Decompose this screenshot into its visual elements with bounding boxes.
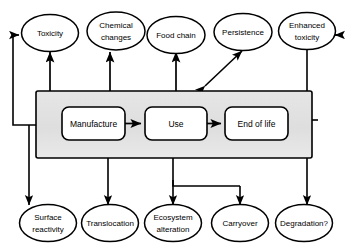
stage-label-manufacture: Manufacture (70, 119, 118, 129)
lifecycle-flow-diagram: Manufacture Use End of life Toxicity Che… (0, 0, 356, 251)
node-enhanced-toxicity-label-line2: toxicity (295, 33, 319, 42)
stage-label-use: Use (168, 119, 183, 129)
node-toxicity-label: Toxicity (37, 29, 63, 38)
node-ecosystem-alteration-shape (145, 205, 202, 242)
node-chemical-changes-label-line2: changes (101, 33, 131, 42)
node-persistence[interactable]: Persistence (214, 14, 272, 51)
node-surface-reactivity-label-line2: reactivity (32, 225, 64, 234)
node-surface-reactivity-shape (20, 205, 77, 242)
node-toxicity[interactable]: Toxicity (22, 15, 79, 52)
node-enhanced-toxicity-shape (279, 13, 336, 50)
node-translocation-label: Translocation (86, 219, 134, 228)
node-food-chain-label: Food chain (156, 31, 196, 40)
node-enhanced-toxicity-label-line1: Enhanced (289, 21, 325, 30)
stage-label-end-of-life: End of life (238, 119, 276, 129)
node-persistence-label: Persistence (222, 28, 264, 37)
node-surface-reactivity[interactable]: Surface reactivity (20, 205, 77, 242)
node-ecosystem-alteration-label-line1: Ecosystem (153, 213, 192, 222)
lifecycle-stage-boxes: Manufacture Use End of life (62, 107, 288, 140)
bottom-nodes: Surface reactivity Translocation Ecosyst… (20, 205, 333, 242)
node-chemical-changes[interactable]: Chemical changes (87, 12, 145, 50)
node-enhanced-toxicity[interactable]: Enhanced toxicity (279, 13, 336, 50)
node-carryover[interactable]: Carryover (212, 205, 269, 242)
node-degradation[interactable]: Degradation? (276, 205, 333, 242)
stage-box-manufacture[interactable]: Manufacture (62, 107, 125, 140)
node-translocation[interactable]: Translocation (82, 205, 139, 242)
diagram-canvas: Manufacture Use End of life Toxicity Che… (0, 0, 356, 251)
node-carryover-label: Carryover (222, 219, 257, 228)
stage-box-use[interactable]: Use (145, 107, 207, 140)
stage-box-end-of-life[interactable]: End of life (225, 107, 288, 140)
node-degradation-label: Degradation? (280, 219, 329, 228)
node-chemical-changes-shape (87, 12, 145, 50)
node-chemical-changes-label-line1: Chemical (99, 21, 133, 30)
node-ecosystem-alteration[interactable]: Ecosystem alteration (145, 205, 202, 242)
node-food-chain[interactable]: Food chain (147, 17, 205, 54)
node-ecosystem-alteration-label-line2: alteration (157, 225, 190, 234)
node-surface-reactivity-label-line1: Surface (34, 213, 62, 222)
